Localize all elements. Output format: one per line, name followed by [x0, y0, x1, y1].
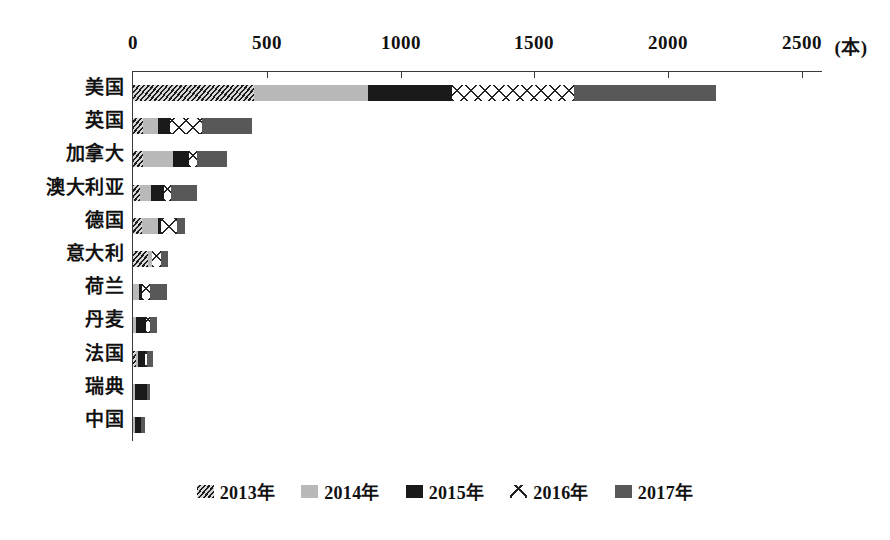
stacked-bar[interactable] [133, 351, 153, 367]
bar-segment-2014年[interactable] [143, 151, 173, 167]
legend-item[interactable]: 2017年 [615, 478, 694, 504]
bar-segment-2016年[interactable] [152, 251, 161, 267]
y-axis-category-label: 瑞典 [28, 379, 124, 395]
stacked-bar-chart: 0 500 1000 1500 2000 2500 (本) 美国英国加拿大澳大利… [0, 0, 890, 540]
bar-segment-2015年[interactable] [136, 317, 146, 333]
bar-segment-2013年[interactable] [133, 85, 254, 101]
y-axis-category-label: 澳大利亚 [28, 180, 124, 196]
y-axis-category-label: 美国 [28, 80, 124, 96]
bar-segment-2016年[interactable] [164, 185, 171, 201]
stacked-bar[interactable] [133, 85, 716, 101]
bar-segment-2017年[interactable] [150, 317, 157, 333]
bar-row: 丹麦 [0, 304, 890, 337]
bar-row: 德国 [0, 205, 890, 238]
legend-item[interactable]: 2013年 [197, 478, 276, 504]
bar-segment-2014年[interactable] [142, 218, 158, 234]
bar-segment-2017年[interactable] [171, 185, 197, 201]
bar-segment-2017年[interactable] [147, 351, 153, 367]
x-tick-label-2000: 2000 [648, 32, 688, 54]
bar-segment-2015年[interactable] [368, 85, 451, 101]
legend-label: 2014年 [324, 478, 380, 504]
bar-row: 中国 [0, 404, 890, 437]
stacked-bar[interactable] [133, 251, 168, 267]
x-tick-label-2500: 2500 [782, 32, 822, 54]
bar-segment-2016年[interactable] [170, 118, 203, 134]
legend-swatch-2015年 [406, 485, 423, 498]
x-tick-label-1000: 1000 [381, 32, 421, 54]
bar-segment-2014年[interactable] [143, 118, 158, 134]
bar-segment-2014年[interactable] [140, 185, 152, 201]
bar-segment-2015年[interactable] [158, 118, 170, 134]
legend-label: 2017年 [638, 478, 694, 504]
y-axis-category-label: 荷兰 [28, 279, 124, 295]
bar-segment-2013年[interactable] [133, 218, 142, 234]
bar-segment-2017年[interactable] [202, 118, 251, 134]
bar-segment-2015年[interactable] [138, 351, 145, 367]
bar-segment-2017年[interactable] [574, 85, 717, 101]
bar-row: 法国 [0, 338, 890, 371]
legend-swatch-2017年 [615, 485, 632, 498]
legend-item[interactable]: 2016年 [510, 478, 589, 504]
stacked-bar[interactable] [133, 185, 197, 201]
x-tick-label-1500: 1500 [514, 32, 554, 54]
bar-row: 澳大利亚 [0, 172, 890, 205]
legend-item[interactable]: 2014年 [301, 478, 380, 504]
legend-label: 2013年 [220, 478, 276, 504]
x-axis-unit-label: (本) [834, 32, 867, 59]
bar-segment-2015年[interactable] [173, 151, 190, 167]
bar-row: 美国 [0, 72, 890, 105]
bar-segment-2017年[interactable] [197, 151, 227, 167]
chart-legend: 2013年2014年2015年2016年2017年 [0, 478, 890, 504]
y-axis-category-label: 英国 [28, 113, 124, 129]
legend-swatch-2014年 [301, 485, 318, 498]
stacked-bar[interactable] [133, 384, 150, 400]
bar-row: 意大利 [0, 238, 890, 271]
stacked-bar[interactable] [133, 218, 185, 234]
bar-segment-2017年[interactable] [147, 384, 150, 400]
bar-segment-2017年[interactable] [161, 251, 168, 267]
bar-row: 英国 [0, 105, 890, 138]
bar-segment-2017年[interactable] [177, 218, 185, 234]
stacked-bar[interactable] [133, 284, 167, 300]
legend-swatch-2016年 [510, 485, 527, 498]
legend-item[interactable]: 2015年 [406, 478, 485, 504]
y-axis-category-label: 法国 [28, 346, 124, 362]
bar-segment-2013年[interactable] [133, 185, 140, 201]
bar-segment-2016年[interactable] [189, 151, 197, 167]
bar-segment-2013年[interactable] [133, 151, 143, 167]
bar-segment-2017年[interactable] [141, 417, 145, 433]
bar-segment-2015年[interactable] [151, 185, 164, 201]
y-axis-category-label: 加拿大 [28, 146, 124, 162]
legend-label: 2016年 [533, 478, 589, 504]
stacked-bar[interactable] [133, 317, 157, 333]
bar-row: 加拿大 [0, 138, 890, 171]
bar-segment-2015年[interactable] [135, 384, 147, 400]
bar-segment-2016年[interactable] [161, 218, 178, 234]
x-tick-label-0: 0 [128, 32, 138, 54]
y-axis-category-label: 德国 [28, 213, 124, 229]
bar-segment-2017年[interactable] [150, 284, 167, 300]
x-tick-label-500: 500 [252, 32, 282, 54]
bar-segment-2013年[interactable] [133, 118, 143, 134]
stacked-bar[interactable] [133, 151, 227, 167]
bar-row: 瑞典 [0, 371, 890, 404]
x-axis-labels: 0 500 1000 1500 2000 2500 (本) [0, 0, 890, 62]
legend-label: 2015年 [429, 478, 485, 504]
bar-segment-2013年[interactable] [133, 251, 148, 267]
bar-segment-2016年[interactable] [452, 85, 574, 101]
legend-swatch-2013年 [197, 485, 214, 498]
y-axis-category-label: 丹麦 [28, 312, 124, 328]
y-axis-category-label: 意大利 [28, 246, 124, 262]
bar-segment-2016年[interactable] [142, 284, 150, 300]
y-axis-category-label: 中国 [28, 412, 124, 428]
bar-row: 荷兰 [0, 271, 890, 304]
bar-segment-2014年[interactable] [254, 85, 368, 101]
stacked-bar[interactable] [133, 417, 145, 433]
stacked-bar[interactable] [133, 118, 252, 134]
